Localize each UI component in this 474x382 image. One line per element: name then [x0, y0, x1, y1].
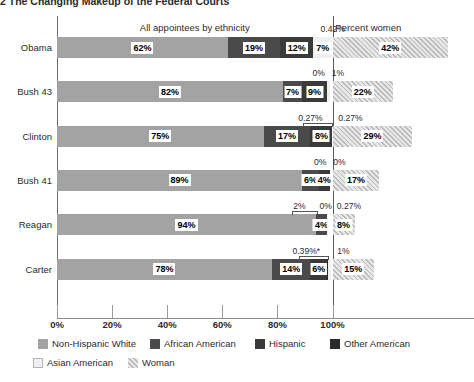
legend-item-hisp[interactable]: Hispanic	[255, 338, 305, 349]
row-label-bush-41: Bush 41	[0, 175, 52, 186]
chart-title: 2 The Changing Makeup of the Federal Cou…	[0, 0, 474, 8]
callout-label: 0.42%	[321, 24, 345, 34]
table-row: 82%7%9%	[57, 81, 333, 102]
row-label-obama: Obama	[0, 42, 52, 53]
callout-label: 0.39%*	[292, 246, 320, 256]
x-tick	[222, 305, 223, 318]
legend-item-other[interactable]: Other American	[330, 338, 410, 349]
legend-item-asian[interactable]: Asian American	[33, 357, 113, 368]
woman-value-label: 8%	[335, 219, 352, 231]
callout-label: 0%	[313, 68, 325, 78]
segment-value-label: 75%	[149, 130, 171, 142]
x-tick	[57, 305, 58, 318]
segment-woman: 42%	[333, 37, 449, 58]
header-all-appointees: All appointees by ethnicity	[140, 22, 250, 33]
legend-label: African American	[164, 338, 236, 349]
legend-swatch-asian-icon	[33, 358, 43, 368]
x-tick	[277, 305, 278, 318]
row-label-clinton: Clinton	[0, 131, 52, 142]
legend-swatch-white-icon	[38, 339, 48, 349]
x-tick	[112, 305, 113, 318]
callout-label: 0%	[333, 157, 345, 167]
header-percent-women: Percent women	[335, 22, 401, 33]
callout-label: 0%	[314, 157, 326, 167]
callout-label: 1%	[337, 246, 349, 256]
leader-tick	[292, 211, 293, 215]
row-label-bush-43: Bush 43	[0, 86, 52, 97]
callout-label: 1%	[332, 68, 344, 78]
woman-value-label: 17%	[345, 174, 367, 186]
table-row: 94%4%	[57, 214, 333, 235]
segment-value-label: 82%	[159, 86, 181, 98]
table-row: 62%19%12%7%	[57, 37, 333, 58]
x-tick	[333, 305, 334, 318]
leader-tick	[328, 256, 329, 260]
segment-value-label: 14%	[280, 263, 302, 275]
segment-value-label: 7%	[284, 86, 301, 98]
x-tick-label: 100%	[320, 319, 344, 330]
legend-item-black[interactable]: African American	[150, 338, 236, 349]
leader-tick	[332, 123, 333, 127]
x-tick-label: 60%	[213, 319, 232, 330]
leader-tick	[299, 256, 300, 260]
legend-swatch-other-icon	[330, 339, 340, 349]
woman-value-label: 15%	[342, 263, 364, 275]
row-label-carter: Carter	[0, 264, 52, 275]
segment-value-label: 62%	[131, 42, 153, 54]
legend-swatch-black-icon	[150, 339, 160, 349]
segment-value-label: 6%	[310, 263, 327, 275]
legend-label: Other American	[344, 338, 410, 349]
x-axis-ticks	[57, 305, 415, 318]
callout-label: 0.27%	[298, 113, 322, 123]
x-tick-label: 0%	[50, 319, 64, 330]
segment-value-label: 8%	[313, 130, 330, 142]
segment-woman: 22%	[333, 81, 394, 102]
woman-value-label: 42%	[379, 42, 401, 54]
segment-woman: 29%	[333, 126, 413, 147]
callout-label: 0.27%	[337, 201, 361, 211]
segment-asian	[327, 214, 328, 235]
legend-label: Non-Hispanic White	[52, 338, 136, 349]
segment-value-label: 94%	[175, 219, 197, 231]
legend-swatch-woman-icon	[128, 358, 138, 368]
x-tick-label: 20%	[103, 319, 122, 330]
row-label-reagan: Reagan	[0, 219, 52, 230]
legend-swatch-hisp-icon	[255, 339, 265, 349]
leader-tick	[303, 123, 304, 127]
chart-legend: Non-Hispanic WhiteAfrican AmericanHispan…	[0, 336, 474, 382]
segment-woman: 17%	[333, 170, 380, 191]
leader-line	[292, 211, 316, 212]
legend-label: Hispanic	[269, 338, 305, 349]
x-tick-label: 80%	[268, 319, 287, 330]
segment-woman: 15%	[333, 259, 374, 280]
segment-value-label: 12%	[286, 42, 308, 54]
segment-value-label: 89%	[169, 174, 191, 186]
callout-label: 2%	[293, 201, 305, 211]
leader-line	[303, 123, 331, 124]
segment-value-label: 7%	[314, 42, 331, 54]
segment-value-label: 17%	[276, 130, 298, 142]
table-row: 78%14%6%	[57, 259, 333, 280]
table-row: 89%6%4%	[57, 170, 333, 191]
segment-value-label: 9%	[306, 86, 323, 98]
callout-label: 0.27%	[338, 113, 362, 123]
segment-value-label: 78%	[153, 263, 175, 275]
legend-label: Asian American	[47, 357, 113, 368]
legend-item-white[interactable]: Non-Hispanic White	[38, 338, 136, 349]
figure-chart: 2 The Changing Makeup of the Federal Cou…	[0, 0, 474, 382]
callout-label: 0%	[319, 201, 331, 211]
woman-value-label: 22%	[352, 86, 374, 98]
segment-value-label: 4%	[316, 174, 333, 186]
table-row: 75%17%8%	[57, 126, 333, 147]
legend-label: Woman	[142, 357, 175, 368]
woman-value-label: 29%	[361, 130, 383, 142]
x-tick	[167, 305, 168, 318]
chart-title-strip: 2 The Changing Makeup of the Federal Cou…	[0, 0, 474, 9]
segment-asian	[328, 259, 331, 280]
leader-line	[299, 256, 328, 257]
segment-asian	[327, 81, 330, 102]
x-tick-label: 40%	[158, 319, 177, 330]
leader-tick	[317, 211, 318, 215]
segment-woman: 8%	[333, 214, 355, 235]
legend-item-woman[interactable]: Woman	[128, 357, 175, 368]
